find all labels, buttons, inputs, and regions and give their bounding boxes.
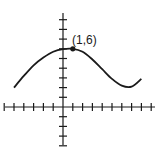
x-axis <box>4 103 155 111</box>
y-axis <box>59 13 67 146</box>
graph: (1,6) <box>0 0 160 155</box>
function-curve <box>14 49 141 88</box>
point-label: (1,6) <box>72 33 97 47</box>
